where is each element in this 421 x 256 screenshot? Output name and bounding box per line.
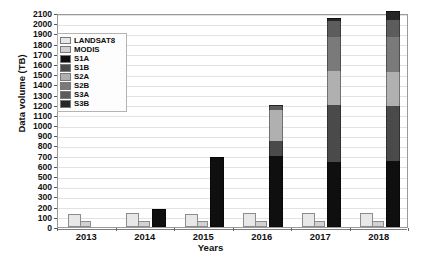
y-tick-mark bbox=[54, 24, 57, 25]
y-tick-mark bbox=[54, 96, 57, 97]
stack-segment-s1a bbox=[152, 209, 166, 227]
y-tick-label: 1500 bbox=[18, 71, 52, 79]
x-tick-label: 2017 bbox=[297, 231, 343, 242]
y-tick-label: 300 bbox=[18, 193, 52, 201]
y-tick-label: 1600 bbox=[18, 61, 52, 69]
stack-segment-s1a bbox=[210, 157, 224, 227]
bar-group bbox=[234, 15, 293, 227]
y-tick-mark bbox=[54, 177, 57, 178]
legend-swatch-icon bbox=[60, 37, 71, 45]
y-tick-label: 1700 bbox=[18, 51, 52, 59]
y-tick-mark bbox=[54, 208, 57, 209]
y-tick-label: 2100 bbox=[18, 10, 52, 18]
x-tick-mark bbox=[408, 228, 409, 231]
x-tick-mark bbox=[174, 228, 175, 231]
stack-segment-s3b bbox=[386, 11, 400, 20]
bar-landsat8 bbox=[126, 213, 139, 227]
y-tick-label: 1400 bbox=[18, 81, 52, 89]
stack-segment-s1b bbox=[327, 105, 341, 162]
bar-stack bbox=[327, 18, 341, 227]
y-tick-label: 400 bbox=[18, 183, 52, 191]
legend-item-label: S3B bbox=[74, 100, 89, 108]
bar-stack bbox=[152, 209, 166, 227]
legend-item-label: S2B bbox=[74, 82, 89, 90]
y-tick-label: 1900 bbox=[18, 30, 52, 38]
y-tick-mark bbox=[54, 14, 57, 15]
legend-item-label: LANDSAT8 bbox=[74, 37, 115, 45]
bar-stack bbox=[269, 105, 283, 227]
legend-swatch-icon bbox=[60, 46, 71, 54]
x-tick-mark bbox=[116, 228, 117, 231]
stack-cap bbox=[269, 105, 283, 106]
x-tick-label: 2016 bbox=[239, 231, 285, 242]
stack-cap bbox=[152, 209, 166, 210]
legend-item-label: S1A bbox=[74, 55, 89, 63]
x-tick-label: 2014 bbox=[122, 231, 168, 242]
y-tick-label: 2000 bbox=[18, 20, 52, 28]
x-tick-label: 2018 bbox=[356, 231, 402, 242]
stack-cap bbox=[386, 11, 400, 12]
legend-item-label: MODIS bbox=[74, 46, 100, 54]
legend-swatch-icon bbox=[60, 73, 71, 81]
legend-swatch-icon bbox=[60, 82, 71, 90]
y-tick-mark bbox=[54, 136, 57, 137]
stack-segment-s3a bbox=[386, 20, 400, 37]
y-tick-mark bbox=[54, 85, 57, 86]
x-tick-mark bbox=[233, 228, 234, 231]
legend-item: S2A bbox=[60, 72, 123, 81]
bar-stack bbox=[210, 157, 224, 227]
legend-swatch-icon bbox=[60, 64, 71, 72]
bar-landsat8 bbox=[68, 214, 81, 227]
y-tick-label: 900 bbox=[18, 132, 52, 140]
x-tick-mark bbox=[350, 228, 351, 231]
legend-item-label: S3A bbox=[74, 91, 89, 99]
legend-item: S3B bbox=[60, 100, 123, 109]
y-tick-label: 600 bbox=[18, 163, 52, 171]
x-axis-title: Years bbox=[0, 242, 421, 253]
x-tick-label: 2015 bbox=[180, 231, 226, 242]
y-axis-ticks: 2100200019001800170016001500140013001200… bbox=[18, 14, 52, 228]
stack-segment-s1a bbox=[327, 162, 341, 227]
y-tick-label: 1800 bbox=[18, 41, 52, 49]
bar-group bbox=[292, 15, 351, 227]
stack-segment-s2a bbox=[327, 71, 341, 105]
y-tick-mark bbox=[54, 34, 57, 35]
legend-item: LANDSAT8 bbox=[60, 36, 123, 45]
bar-chart: Data volume (TB) 21002000190018001700160… bbox=[0, 0, 421, 256]
y-tick-mark bbox=[54, 116, 57, 117]
stack-segment-s2a bbox=[269, 110, 283, 142]
y-tick-mark bbox=[54, 146, 57, 147]
legend-item: S2B bbox=[60, 81, 123, 90]
y-tick-mark bbox=[54, 55, 57, 56]
stack-cap bbox=[327, 18, 341, 19]
stack-segment-s1a bbox=[269, 156, 283, 227]
stack-segment-s2a bbox=[386, 72, 400, 106]
y-tick-mark bbox=[54, 218, 57, 219]
y-tick-mark bbox=[54, 65, 57, 66]
y-tick-label: 1200 bbox=[18, 102, 52, 110]
y-tick-mark bbox=[54, 126, 57, 127]
y-tick-label: 1000 bbox=[18, 122, 52, 130]
y-tick-mark bbox=[54, 106, 57, 107]
bar-group bbox=[175, 15, 234, 227]
x-tick-label: 2013 bbox=[63, 231, 109, 242]
legend-swatch-icon bbox=[60, 91, 71, 99]
stack-segment-s3a bbox=[327, 21, 341, 37]
y-tick-mark bbox=[54, 197, 57, 198]
y-tick-mark bbox=[54, 167, 57, 168]
stack-cap bbox=[210, 157, 224, 158]
legend-item-label: S2A bbox=[74, 73, 89, 81]
x-tick-mark bbox=[291, 228, 292, 231]
y-tick-mark bbox=[54, 157, 57, 158]
legend-swatch-icon bbox=[60, 100, 71, 108]
y-tick-mark bbox=[54, 75, 57, 76]
bar-group bbox=[351, 15, 410, 227]
bar-landsat8 bbox=[185, 214, 198, 227]
bar-landsat8 bbox=[243, 213, 256, 227]
bar-landsat8 bbox=[360, 213, 373, 227]
legend-item: S1B bbox=[60, 63, 123, 72]
y-tick-mark bbox=[54, 45, 57, 46]
stack-segment-s1b bbox=[386, 106, 400, 161]
stack-segment-s1a bbox=[386, 161, 400, 227]
y-tick-label: 200 bbox=[18, 204, 52, 212]
